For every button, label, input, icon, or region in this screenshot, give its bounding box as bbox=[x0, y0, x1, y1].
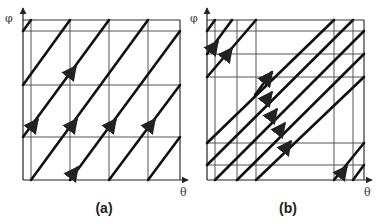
trajectory-line bbox=[207, 20, 215, 31]
phi-axis-label-b: φ bbox=[190, 12, 198, 25]
phi-axis-label-a: φ bbox=[5, 12, 13, 25]
direction-arrow-icon bbox=[269, 72, 272, 76]
direction-arrow-icon bbox=[152, 119, 155, 123]
direction-arrow-icon bbox=[269, 92, 272, 96]
trajectory-line bbox=[334, 143, 364, 180]
trajectory-line bbox=[148, 137, 180, 180]
direction-arrow-icon bbox=[274, 109, 277, 113]
direction-arrow-icon bbox=[282, 123, 285, 127]
caption-a: (a) bbox=[95, 200, 112, 216]
trajectory-line bbox=[23, 20, 70, 85]
panel-b bbox=[207, 8, 372, 180]
trajectory-line bbox=[23, 20, 31, 31]
trajectory-line bbox=[109, 85, 180, 180]
direction-arrow-icon bbox=[229, 48, 232, 52]
trajectory-line bbox=[353, 165, 364, 180]
theta-axis-label-b: θ bbox=[364, 186, 371, 199]
panel-a bbox=[23, 8, 188, 180]
direction-arrow-icon bbox=[288, 141, 291, 145]
caption-b: (b) bbox=[279, 200, 297, 216]
phase-diagram: φ θ φ θ (a) (b) bbox=[0, 0, 387, 224]
theta-axis-label-a: θ bbox=[180, 186, 187, 199]
trajectory-line bbox=[23, 20, 109, 137]
